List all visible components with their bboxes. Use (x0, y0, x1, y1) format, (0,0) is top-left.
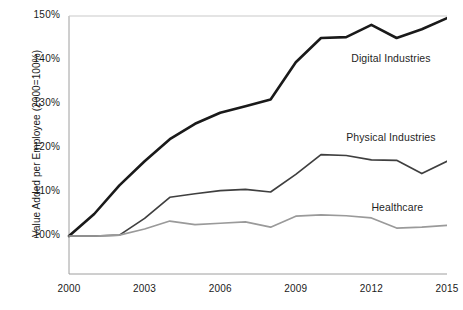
x-tick-2006: 2006 (198, 283, 242, 294)
x-tick-2003: 2003 (123, 283, 167, 294)
y-axis-title: Value Added per Employee (2000=100%) (31, 24, 42, 264)
x-tick-2000: 2000 (47, 283, 91, 294)
series-label-digital-industries: Digital Industries (351, 52, 430, 64)
series-label-physical-industries: Physical Industries (346, 131, 435, 143)
series-line-healthcare (69, 215, 447, 236)
x-tick-2012: 2012 (349, 283, 393, 294)
x-tick-2009: 2009 (274, 283, 318, 294)
x-tick-2015: 2015 (425, 283, 463, 294)
y-tick-150pct: 150% (14, 9, 60, 20)
series-label-healthcare: Healthcare (371, 201, 423, 213)
